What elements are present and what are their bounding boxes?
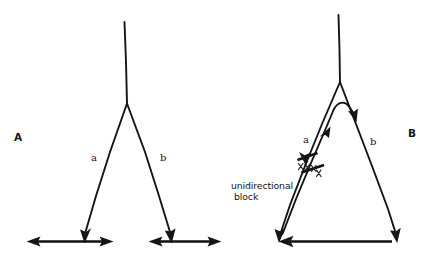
panel-b-letter: B bbox=[408, 127, 416, 139]
panel-a-trunk bbox=[125, 22, 128, 104]
panel-b-trunk bbox=[339, 15, 341, 82]
panel-b-drawing bbox=[275, 15, 401, 247]
unidirectional-block-label-line2: block bbox=[234, 192, 258, 203]
panel-b-label-b: b bbox=[370, 136, 376, 148]
figure-canvas: A a b B a b unidirectional block bbox=[0, 0, 430, 255]
panel-b-branch-a bbox=[281, 82, 340, 232]
panel-a-label-a: a bbox=[91, 152, 97, 164]
panel-a-drawing bbox=[27, 22, 222, 247]
panel-a-branch-b bbox=[127, 104, 170, 233]
panel-a-branch-a bbox=[86, 104, 128, 233]
panel-a-label-b: b bbox=[160, 152, 166, 164]
panel-b-reentry-arrowhead bbox=[348, 108, 358, 122]
panel-b-label-a: a bbox=[303, 134, 309, 146]
diagram-svg bbox=[0, 0, 430, 255]
panel-a-letter: A bbox=[14, 131, 22, 143]
